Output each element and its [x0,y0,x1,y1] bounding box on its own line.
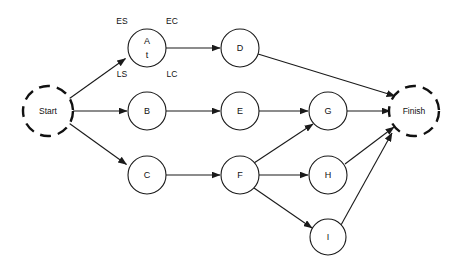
diagram-svg: Start Finish A t B C D [0,0,456,270]
activity-node-a[interactable]: A t [128,29,166,67]
activity-node-i[interactable]: I [310,219,346,255]
node-d-label: D [237,43,244,53]
network-diagram-canvas: Start Finish A t B C D [0,0,456,270]
node-a-label: A [144,36,150,46]
start-label: Start [39,106,58,116]
early-start-label: ES [116,16,128,26]
node-h-label: H [325,170,332,180]
nodes-layer: A t B C D E F [128,29,347,255]
finish-label: Finish [403,106,426,116]
node-a-circle [128,29,166,67]
node-f-label: F [237,170,243,180]
node-b-label: B [144,106,150,116]
activity-node-e[interactable]: E [221,92,259,130]
edge-h-finish [345,127,394,164]
node-c-label: C [144,170,151,180]
activity-node-b[interactable]: B [128,92,166,130]
activity-node-g[interactable]: G [309,92,347,130]
node-i-label: I [327,232,330,242]
terminal-node-start[interactable]: Start [23,86,73,136]
activity-node-d[interactable]: D [221,29,259,67]
activity-node-h[interactable]: H [309,156,347,194]
node-e-label: E [237,106,243,116]
edge-f-g [254,124,313,163]
early-completion-label: EC [166,16,178,26]
node-g-label: G [324,106,331,116]
late-start-label: LS [117,69,128,79]
late-completion-label: LC [167,69,178,79]
activity-node-c[interactable]: C [128,156,166,194]
edge-d-finish [258,54,395,96]
edge-f-i [254,188,312,228]
edge-i-finish [341,133,392,225]
edge-start-c [70,124,127,165]
activity-node-f[interactable]: F [221,156,259,194]
terminal-node-finish[interactable]: Finish [389,86,439,136]
